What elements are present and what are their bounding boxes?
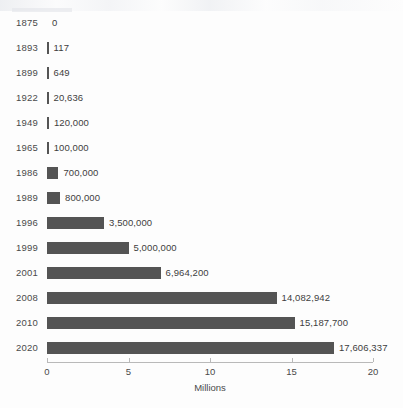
bar-row: 202017,606,337 — [0, 341, 403, 355]
bar — [47, 192, 60, 204]
value-label: 14,082,942 — [282, 291, 331, 305]
bar — [47, 342, 334, 354]
value-label: 800,000 — [65, 191, 100, 205]
bar — [47, 67, 49, 79]
bar — [47, 142, 49, 154]
value-label: 0 — [52, 16, 57, 30]
x-axis-tick-label: 5 — [114, 366, 144, 378]
plot-area: 1875018931171899649192220,6361949120,000… — [0, 0, 403, 408]
category-label: 1986 — [0, 166, 38, 180]
bar — [47, 317, 295, 329]
bar-chart: 1875018931171899649192220,6361949120,000… — [0, 0, 403, 408]
x-axis-tick-label: 15 — [277, 366, 307, 378]
bar-row: 1893117 — [0, 41, 403, 55]
x-axis-tick — [373, 358, 374, 362]
category-label: 1965 — [0, 141, 38, 155]
bar-row: 19995,000,000 — [0, 241, 403, 255]
bar-row: 201015,187,700 — [0, 316, 403, 330]
bar-row: 1989800,000 — [0, 191, 403, 205]
value-label: 3,500,000 — [109, 216, 152, 230]
x-axis-tick-label: 0 — [32, 366, 62, 378]
bar — [47, 267, 161, 279]
x-axis-tick-label: 10 — [195, 366, 225, 378]
x-axis-tick — [47, 358, 48, 362]
category-label: 1989 — [0, 191, 38, 205]
category-label: 1996 — [0, 216, 38, 230]
value-label: 17,606,337 — [339, 341, 388, 355]
category-label: 2020 — [0, 341, 38, 355]
x-axis-title: Millions — [170, 382, 250, 394]
bar — [47, 42, 49, 54]
category-label: 1875 — [0, 16, 38, 30]
value-label: 5,000,000 — [134, 241, 177, 255]
value-label: 700,000 — [63, 166, 98, 180]
bar-row: 192220,636 — [0, 91, 403, 105]
bar-row: 1949120,000 — [0, 116, 403, 130]
bar — [47, 117, 49, 129]
value-label: 15,187,700 — [300, 316, 349, 330]
value-label: 117 — [54, 41, 69, 55]
bar-row: 1986700,000 — [0, 166, 403, 180]
category-label: 2010 — [0, 316, 38, 330]
value-label: 120,000 — [54, 116, 89, 130]
bar — [47, 292, 277, 304]
bar-row: 1899649 — [0, 66, 403, 80]
value-label: 100,000 — [54, 141, 89, 155]
category-label: 1893 — [0, 41, 38, 55]
category-label: 1899 — [0, 66, 38, 80]
value-label: 649 — [54, 66, 70, 80]
bar — [47, 92, 49, 104]
bar — [47, 217, 104, 229]
value-label: 6,964,200 — [166, 266, 209, 280]
value-label: 20,636 — [54, 91, 84, 105]
x-axis-tick — [292, 358, 293, 362]
bar-row: 20016,964,200 — [0, 266, 403, 280]
bar-row: 19963,500,000 — [0, 216, 403, 230]
bar-row: 1965100,000 — [0, 141, 403, 155]
category-label: 1922 — [0, 91, 38, 105]
x-axis-line — [47, 362, 373, 363]
x-axis-tick-label: 20 — [358, 366, 388, 378]
x-axis-tick — [129, 358, 130, 362]
category-label: 1999 — [0, 241, 38, 255]
bar-row: 200814,082,942 — [0, 291, 403, 305]
bar — [47, 167, 58, 179]
bar-row: 18750 — [0, 16, 403, 30]
bar — [47, 242, 129, 254]
x-axis-tick — [210, 358, 211, 362]
category-label: 2001 — [0, 266, 38, 280]
category-label: 1949 — [0, 116, 38, 130]
category-label: 2008 — [0, 291, 38, 305]
